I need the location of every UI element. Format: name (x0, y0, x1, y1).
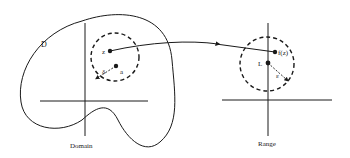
point-label-a: a (120, 68, 124, 76)
domain-caption: Domain (70, 142, 93, 150)
delta-radius-arrow (97, 66, 116, 78)
mapping-arrow (110, 42, 218, 51)
range-caption: Range (258, 140, 276, 148)
region-label-D: D (41, 40, 47, 49)
point-fz (273, 50, 277, 54)
domain-region-outline (20, 15, 174, 147)
diagram-canvas: D z a δ Domain f(z) L ε Range (0, 0, 350, 158)
point-label-z: z (102, 48, 105, 56)
delta-label: δ (102, 68, 106, 76)
epsilon-label: ε (276, 72, 279, 80)
delta-neighborhood (91, 33, 139, 81)
point-label-L: L (258, 60, 262, 68)
point-label-fz: f(z) (278, 49, 289, 57)
point-L (266, 61, 271, 66)
limit-diagram: D z a δ Domain f(z) L ε Range (0, 0, 350, 158)
point-a (114, 64, 118, 68)
